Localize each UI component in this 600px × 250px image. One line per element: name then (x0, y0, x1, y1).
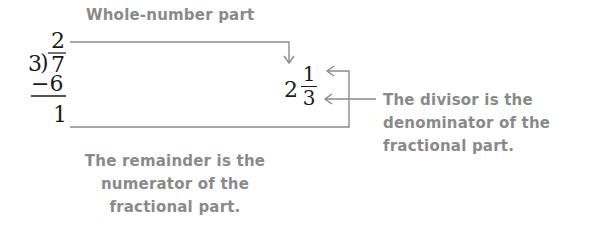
divisor-note: The divisor is the denominator of the fr… (383, 89, 550, 158)
divisor-note-line-2: denominator of the (383, 112, 550, 135)
subtrahend: −6 (31, 73, 63, 95)
whole-number-part-label: Whole-number part (86, 6, 254, 24)
quotient: 2 (51, 30, 65, 52)
divisor-note-line-3: fractional part. (383, 135, 550, 158)
mixed-number-fraction: 1 3 (300, 64, 318, 108)
divisor-note-line-1: The divisor is the (383, 89, 550, 112)
remainder-note-line-1: The remainder is the (60, 150, 290, 173)
remainder-note-line-3: fractional part. (60, 196, 290, 219)
remainder-note: The remainder is the numerator of the fr… (60, 150, 290, 219)
remainder: 1 (53, 104, 67, 126)
remainder-note-line-2: numerator of the (60, 173, 290, 196)
fraction-numerator: 1 (300, 64, 318, 84)
mixed-number-whole: 2 (284, 79, 298, 101)
fraction-denominator: 3 (300, 88, 318, 108)
quotient-arrow-line (70, 42, 289, 62)
